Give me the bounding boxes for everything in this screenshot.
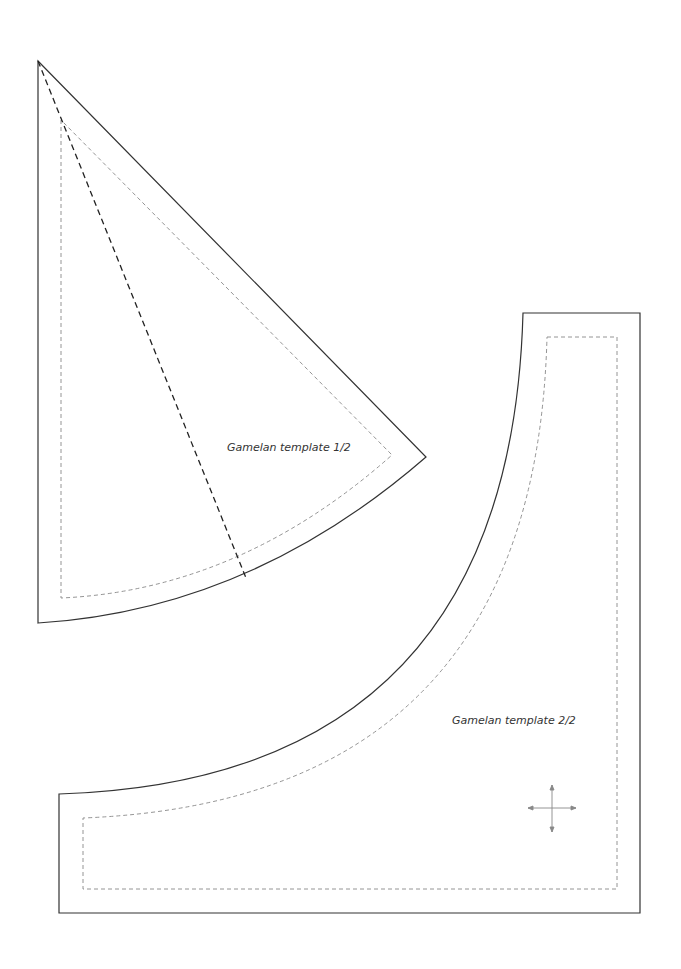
template-2-piece: Gamelan template 2/2 — [59, 313, 640, 913]
template-2-label: Gamelan template 2/2 — [452, 714, 576, 727]
template-2-cut-line — [59, 313, 640, 913]
template-1-seam-line — [61, 120, 392, 598]
template-1-label: Gamelan template 1/2 — [227, 441, 351, 454]
grain-arrow-icon — [528, 785, 576, 832]
template-2-seam-line — [83, 337, 617, 889]
pattern-sheet: Gamelan template 1/2 Gamelan template 2/… — [0, 0, 681, 969]
template-1-fold-line — [38, 61, 246, 578]
template-1-piece: Gamelan template 1/2 — [38, 61, 426, 623]
template-1-cut-line — [38, 61, 426, 623]
